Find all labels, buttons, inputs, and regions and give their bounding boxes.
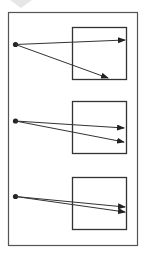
panel-1	[13, 28, 127, 80]
target-box	[73, 178, 127, 230]
arrow-lower	[16, 45, 109, 79]
panel-2	[13, 102, 127, 154]
panel-3	[13, 178, 127, 230]
target-box	[73, 28, 127, 80]
arrow-upper	[16, 40, 126, 45]
arrow-upper	[16, 197, 126, 208]
arrow-lower	[16, 197, 126, 213]
diagram-canvas	[0, 0, 145, 254]
